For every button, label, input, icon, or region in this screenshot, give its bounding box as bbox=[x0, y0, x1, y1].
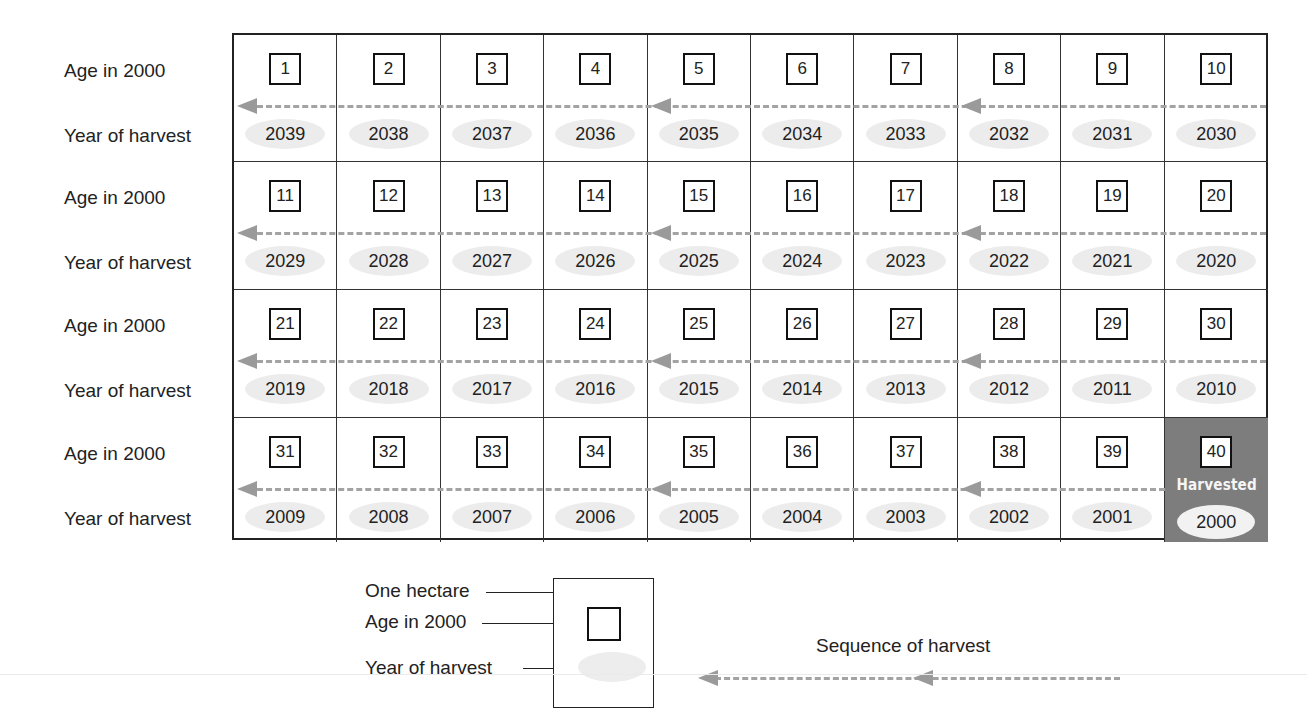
age-box: 4 bbox=[579, 53, 611, 85]
sequence-arrowhead-icon bbox=[961, 98, 981, 114]
harvested-label: Harvested bbox=[1172, 475, 1260, 494]
hectare-cell: 232017 bbox=[441, 290, 544, 418]
age-box: 24 bbox=[579, 308, 611, 340]
year-of-harvest-oval: 2027 bbox=[452, 246, 532, 276]
hectare-cell: 192021 bbox=[1061, 162, 1164, 290]
year-of-harvest-oval: 2026 bbox=[555, 246, 635, 276]
age-box: 26 bbox=[786, 308, 818, 340]
sequence-arrowhead-icon bbox=[237, 225, 257, 241]
sequence-arrowhead-icon bbox=[651, 98, 671, 114]
age-box: 23 bbox=[476, 308, 508, 340]
legend-leader-one-hectare bbox=[486, 592, 553, 593]
hectare-cell: 62034 bbox=[751, 35, 854, 162]
hectare-cell: 322008 bbox=[337, 418, 440, 542]
hectare-cell: 162024 bbox=[751, 162, 854, 290]
hectare-cell: 202020 bbox=[1165, 162, 1268, 290]
age-box: 39 bbox=[1096, 436, 1128, 468]
hectare-cell: 32037 bbox=[441, 35, 544, 162]
year-of-harvest-oval: 2000 bbox=[1177, 505, 1255, 539]
year-of-harvest-oval: 2023 bbox=[866, 246, 946, 276]
legend-age-square bbox=[587, 607, 621, 641]
year-of-harvest-oval: 2005 bbox=[659, 502, 739, 532]
legend-sequence-arrowhead-icon bbox=[913, 670, 933, 686]
sequence-arrowhead-icon bbox=[961, 353, 981, 369]
sequence-arrowhead-icon bbox=[961, 481, 981, 497]
age-box: 32 bbox=[373, 436, 405, 468]
age-box: 18 bbox=[993, 180, 1025, 212]
harvest-sequence-dashed-line bbox=[248, 105, 1266, 108]
row-label-age-in-2000: Age in 2000 bbox=[64, 315, 165, 337]
age-box: 11 bbox=[269, 180, 301, 212]
sequence-arrowhead-icon bbox=[651, 353, 671, 369]
row-label-age-in-2000: Age in 2000 bbox=[64, 443, 165, 465]
harvest-sequence-dashed-line bbox=[248, 488, 1165, 491]
year-of-harvest-oval: 2022 bbox=[969, 246, 1049, 276]
age-box: 14 bbox=[579, 180, 611, 212]
legend-sequence-label: Sequence of harvest bbox=[816, 635, 990, 657]
hectare-cell: 222018 bbox=[337, 290, 440, 418]
sequence-arrowhead-icon bbox=[237, 481, 257, 497]
hectare-cell: 102030 bbox=[1165, 35, 1268, 162]
year-of-harvest-oval: 2017 bbox=[452, 374, 532, 404]
age-box: 37 bbox=[890, 436, 922, 468]
age-box: 33 bbox=[476, 436, 508, 468]
year-of-harvest-oval: 2002 bbox=[969, 502, 1049, 532]
year-of-harvest-oval: 2037 bbox=[452, 119, 532, 149]
row-label-year-of-harvest: Year of harvest bbox=[64, 508, 191, 530]
age-box: 12 bbox=[373, 180, 405, 212]
age-box: 13 bbox=[476, 180, 508, 212]
age-box: 25 bbox=[683, 308, 715, 340]
age-box: 8 bbox=[993, 53, 1025, 85]
year-of-harvest-oval: 2007 bbox=[452, 502, 532, 532]
legend-sequence-arrowhead-icon bbox=[698, 670, 718, 686]
sequence-arrowhead-icon bbox=[961, 225, 981, 241]
hectare-cell: 382002 bbox=[958, 418, 1061, 542]
hectare-cell: 22038 bbox=[337, 35, 440, 162]
age-box: 22 bbox=[373, 308, 405, 340]
hectare-cell: 172023 bbox=[854, 162, 957, 290]
age-box: 15 bbox=[683, 180, 715, 212]
sequence-arrowhead-icon bbox=[237, 98, 257, 114]
hectare-cell: 392001 bbox=[1061, 418, 1164, 542]
age-box: 16 bbox=[786, 180, 818, 212]
age-box: 38 bbox=[993, 436, 1025, 468]
hectare-cell: 302010 bbox=[1165, 290, 1268, 418]
age-box: 34 bbox=[579, 436, 611, 468]
year-of-harvest-oval: 2034 bbox=[762, 119, 842, 149]
year-of-harvest-oval: 2031 bbox=[1072, 119, 1152, 149]
harvest-sequence-dashed-line bbox=[248, 360, 1266, 363]
page-rule bbox=[0, 674, 1307, 675]
year-of-harvest-oval: 2006 bbox=[555, 502, 635, 532]
age-box: 35 bbox=[683, 436, 715, 468]
year-of-harvest-oval: 2018 bbox=[349, 374, 429, 404]
age-box: 17 bbox=[890, 180, 922, 212]
year-of-harvest-oval: 2035 bbox=[659, 119, 739, 149]
year-of-harvest-oval: 2014 bbox=[762, 374, 842, 404]
hectare-cell: 362004 bbox=[751, 418, 854, 542]
row-label-year-of-harvest: Year of harvest bbox=[64, 252, 191, 274]
year-of-harvest-oval: 2025 bbox=[659, 246, 739, 276]
sequence-arrowhead-icon bbox=[237, 353, 257, 369]
age-box: 5 bbox=[683, 53, 715, 85]
hectare-cell: 42036 bbox=[544, 35, 647, 162]
age-box: 10 bbox=[1200, 53, 1232, 85]
hectare-cell: 72033 bbox=[854, 35, 957, 162]
year-of-harvest-oval: 2003 bbox=[866, 502, 946, 532]
sequence-arrowhead-icon bbox=[651, 225, 671, 241]
year-of-harvest-oval: 2019 bbox=[245, 374, 325, 404]
year-of-harvest-oval: 2009 bbox=[245, 502, 325, 532]
hectare-cell: 132027 bbox=[441, 162, 544, 290]
legend-one-hectare-label: One hectare bbox=[365, 580, 470, 602]
year-of-harvest-oval: 2021 bbox=[1072, 246, 1152, 276]
hectare-cell: 272013 bbox=[854, 290, 957, 418]
legend-year-label: Year of harvest bbox=[365, 657, 492, 679]
hectare-cell: 242016 bbox=[544, 290, 647, 418]
hectare-cell: 352005 bbox=[648, 418, 751, 542]
age-box: 29 bbox=[1096, 308, 1128, 340]
hectare-cell: 372003 bbox=[854, 418, 957, 542]
hectare-cell: 312009 bbox=[234, 418, 337, 542]
year-of-harvest-oval: 2011 bbox=[1072, 374, 1152, 404]
year-of-harvest-oval: 2001 bbox=[1072, 502, 1152, 532]
age-box: 31 bbox=[269, 436, 301, 468]
age-box: 30 bbox=[1200, 308, 1232, 340]
